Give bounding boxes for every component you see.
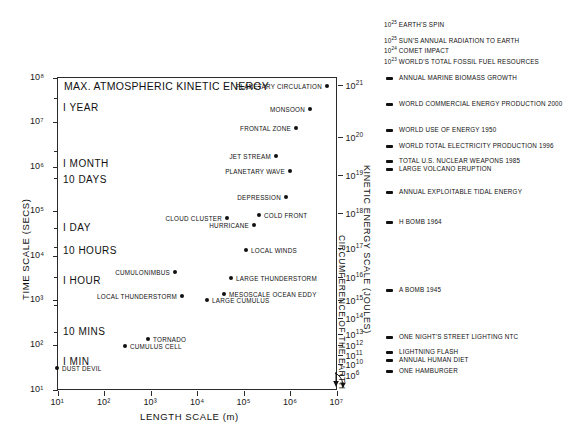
y-tick-major	[53, 78, 58, 79]
x-tick-label: 10⁶	[283, 397, 297, 407]
chart-figure: MAX. ATMOSPHERIC KINETIC ENERGY TIME SCA…	[0, 0, 564, 448]
y-tick-minor	[54, 228, 57, 229]
time-scale-annotation: 10 MINS	[63, 326, 105, 337]
energy-reference-label: A BOMB 1945	[399, 286, 441, 293]
y2-tick-label: 106	[346, 369, 360, 381]
y2-tick	[338, 318, 343, 319]
y-tick-minor	[54, 178, 57, 179]
data-point-label: TORNADO	[153, 336, 186, 343]
y2-tick	[338, 345, 343, 346]
data-point	[244, 248, 249, 253]
data-point	[284, 195, 289, 200]
time-scale-annotation: 10 HOURS	[63, 245, 117, 256]
data-point-label: LOCAL WINDS	[251, 247, 297, 254]
x-tick-major	[58, 391, 59, 396]
energy-reference-marker	[386, 351, 393, 354]
y2-tick	[338, 300, 343, 301]
y-tick-major	[53, 211, 58, 212]
data-point-label: DEPRESSION	[237, 194, 281, 201]
energy-reference-label: ONE NIGHT'S STREET LIGHTING NTC	[399, 333, 518, 340]
x-tick-label: 10¹	[51, 397, 64, 407]
energy-reference-marker	[386, 221, 393, 224]
y2-tick-label: 1017	[346, 242, 364, 254]
data-point	[180, 294, 185, 299]
energy-reference-label: LIGHTNING FLASH	[399, 348, 458, 355]
x-tick-major	[197, 391, 198, 396]
data-point-label: LARGE THUNDERSTORM	[236, 275, 317, 282]
data-point-label: PLANETARY CIRCULATION	[236, 83, 322, 90]
data-point	[123, 344, 128, 349]
y2-tick	[338, 375, 343, 376]
x-axis-label: LENGTH SCALE (m)	[140, 411, 239, 422]
y2-tick	[338, 248, 343, 249]
energy-reference-label: ANNUAL MARINE BIOMASS GROWTH	[399, 74, 517, 81]
time-scale-annotation: 10 DAYS	[63, 174, 107, 185]
time-scale-annotation: I DAY	[63, 222, 91, 233]
data-point-label: DUST DEVIL	[62, 365, 101, 372]
data-point	[55, 366, 60, 371]
data-point-label: FRONTAL ZONE	[240, 125, 291, 132]
energy-reference-marker	[386, 289, 393, 292]
y2-tick	[338, 277, 343, 278]
y-tick-minor	[54, 305, 57, 306]
y-tick-label: 10³	[30, 294, 43, 304]
data-point	[294, 126, 299, 131]
energy-reference-marker	[386, 160, 393, 163]
energy-reference-label: 1024 COMET IMPACT	[384, 46, 449, 54]
energy-reference-label: WORLD USE OF ENERGY 1950	[399, 126, 496, 133]
data-point-label: CUMULONIMBUS	[115, 269, 170, 276]
energy-reference-label: H BOMB 1964	[399, 218, 442, 225]
energy-reference-label: ONE HAMBURGER	[399, 367, 458, 374]
y2-tick-label: 1018	[346, 207, 364, 219]
data-point	[225, 216, 230, 221]
y-tick-label: 10⁸	[30, 72, 44, 82]
y-tick-major	[53, 122, 58, 123]
x-tick-label: 10⁵	[237, 397, 251, 407]
x-tick-label: 10²	[97, 397, 110, 407]
y2-axis-label: KINETIC ENERGY SCALE (JOULES)	[362, 165, 372, 334]
energy-reference-label: TOTAL U.S. NUCLEAR WEAPONS 1985	[399, 157, 520, 164]
y-tick-major	[53, 167, 58, 168]
energy-reference-marker	[386, 359, 393, 362]
y2-tick-label: 1019	[346, 169, 364, 181]
time-scale-annotation: I HOUR	[63, 275, 101, 286]
data-point-label: CLOUD CLUSTER	[166, 215, 222, 222]
data-point	[229, 276, 234, 281]
y2-tick-label: 1015	[346, 294, 364, 306]
data-point	[308, 107, 313, 112]
y-tick-label: 10⁶	[30, 161, 44, 171]
y-tick-major	[53, 256, 58, 257]
y-tick-minor	[54, 247, 57, 248]
x-tick-label: 10⁴	[190, 397, 204, 407]
x-tick-major	[290, 391, 291, 396]
time-scale-annotation: I YEAR	[63, 102, 99, 113]
y-tick-minor	[54, 277, 57, 278]
data-point	[146, 337, 151, 342]
y2-tick-label: 1016	[346, 271, 364, 283]
time-scale-annotation: I MONTH	[63, 158, 109, 169]
y2-tick	[338, 85, 343, 86]
y2-tick	[338, 175, 343, 176]
data-point-label: COLD FRONT	[264, 212, 307, 219]
data-point-label: LARGE CUMULUS	[212, 297, 269, 304]
x-tick-major	[244, 391, 245, 396]
data-point	[252, 223, 257, 228]
y2-tick	[338, 355, 343, 356]
y-tick-minor	[54, 151, 57, 152]
energy-reference-label: LARGE VOLCANO ERUPTION	[399, 165, 492, 172]
energy-reference-marker	[386, 370, 393, 373]
x-tick-major	[151, 391, 152, 396]
y2-tick-label: 1020	[346, 131, 364, 143]
energy-reference-marker	[386, 129, 393, 132]
energy-reference-label: ANNUAL HUMAN DIET	[399, 356, 469, 363]
y2-tick	[338, 213, 343, 214]
y-axis-left	[57, 77, 58, 390]
x-tick-major	[104, 391, 105, 396]
y-tick-minor	[54, 98, 57, 99]
y-tick-major	[53, 300, 58, 301]
energy-reference-label: 1025 SUN'S ANNUAL RADIATION TO EARTH	[384, 36, 519, 44]
data-point	[205, 298, 210, 303]
y2-tick-label: 1014	[346, 312, 364, 324]
y2-tick	[338, 334, 343, 335]
energy-reference-label: 1023 WORLD'S TOTAL FOSSIL FUEL RESOURCES	[384, 57, 539, 65]
